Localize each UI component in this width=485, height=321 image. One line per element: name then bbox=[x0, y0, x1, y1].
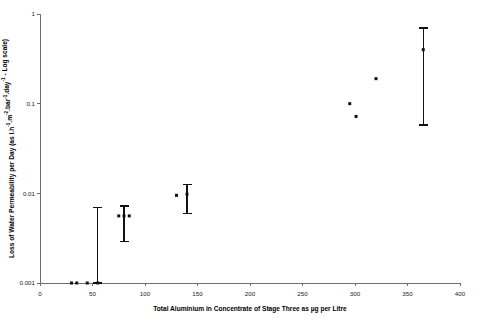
y-axis-ticks: 0.0010.010.11 bbox=[20, 10, 40, 286]
y-tick-label: 0.1 bbox=[26, 100, 35, 107]
y-axis-title-text: Loss of Water Permeability per Day (as l… bbox=[0, 39, 16, 258]
x-tick-label: 350 bbox=[402, 290, 413, 297]
data-point bbox=[96, 282, 99, 285]
x-tick-label: 0 bbox=[38, 290, 42, 297]
data-point bbox=[422, 48, 425, 51]
y-tick-label: 0.01 bbox=[23, 190, 36, 197]
scatter-plot: 050100150200250300350400 0.0010.010.11 T… bbox=[0, 0, 485, 321]
x-tick-label: 250 bbox=[297, 290, 308, 297]
error-bars bbox=[93, 28, 428, 283]
data-point bbox=[375, 77, 378, 80]
x-tick-label: 300 bbox=[350, 290, 361, 297]
data-point bbox=[128, 214, 131, 217]
data-point bbox=[348, 102, 351, 105]
x-tick-label: 50 bbox=[89, 290, 96, 297]
data-point bbox=[86, 282, 89, 285]
axes bbox=[40, 14, 460, 283]
x-tick-label: 200 bbox=[245, 290, 256, 297]
chart-container: 050100150200250300350400 0.0010.010.11 T… bbox=[0, 0, 485, 321]
data-point bbox=[186, 193, 189, 196]
data-point bbox=[123, 214, 126, 217]
y-tick-label: 1 bbox=[32, 10, 36, 17]
data-points bbox=[70, 48, 425, 284]
x-axis-title: Total Aluminium in Concentrate of Stage … bbox=[153, 305, 347, 313]
x-tick-label: 400 bbox=[455, 290, 466, 297]
x-axis-title-text: Total Aluminium in Concentrate of Stage … bbox=[153, 305, 347, 313]
x-tick-label: 100 bbox=[140, 290, 151, 297]
data-point bbox=[70, 282, 73, 285]
y-tick-label: 0.001 bbox=[20, 279, 36, 286]
y-axis-title: Loss of Water Permeability per Day (as l… bbox=[0, 39, 16, 258]
data-point bbox=[117, 214, 120, 217]
data-point bbox=[75, 282, 78, 285]
data-point bbox=[175, 194, 178, 197]
data-point bbox=[355, 115, 358, 118]
x-tick-label: 150 bbox=[192, 290, 203, 297]
x-axis-ticks: 050100150200250300350400 bbox=[38, 283, 465, 297]
